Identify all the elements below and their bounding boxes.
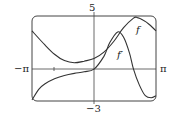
y-max-label: 5 [89,3,95,13]
x-max-label: π [160,64,167,74]
f-curve-label: f [136,25,140,35]
y-min-label: −3 [86,104,101,114]
x-min-label: −π [14,64,29,74]
f-prime-curve-label: f′ [117,50,123,60]
chart-canvas [0,0,171,120]
